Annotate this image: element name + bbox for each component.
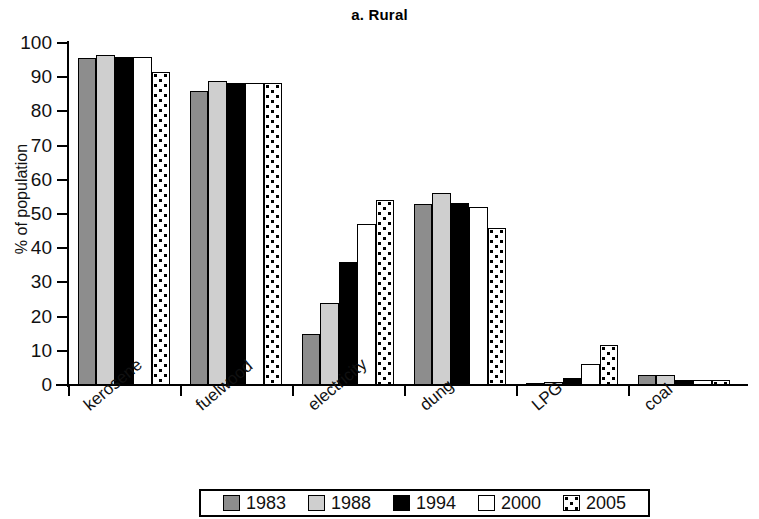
legend-item-1988[interactable]: 1988	[308, 494, 371, 512]
legend-label: 1988	[331, 494, 371, 512]
legend-swatch-icon-1994	[393, 495, 410, 511]
legend-item-2000[interactable]: 2000	[478, 494, 541, 512]
x-axis-tick	[404, 386, 406, 396]
x-axis-label-coal: coal	[640, 380, 677, 415]
y-axis-tick	[57, 42, 68, 44]
x-axis-tick	[180, 386, 182, 396]
legend-swatch-icon-2000	[478, 495, 495, 511]
y-axis-tick	[57, 110, 68, 112]
legend-label: 2000	[501, 494, 541, 512]
legend-label: 2005	[586, 494, 626, 512]
y-axis-tick	[57, 213, 68, 215]
y-axis-tick	[57, 316, 68, 318]
bar-chart: a. Rural % of population 010203040506070…	[0, 0, 759, 519]
x-axis-tick	[292, 386, 294, 396]
chart-legend: 19831988199420002005	[199, 489, 650, 517]
x-axis-tick	[628, 386, 630, 396]
legend-label: 1983	[246, 494, 286, 512]
legend-label: 1994	[416, 494, 456, 512]
legend-item-2005[interactable]: 2005	[563, 494, 626, 512]
x-axis-tick	[68, 386, 70, 396]
y-axis-tick	[57, 350, 68, 352]
x-axis-tick	[516, 386, 518, 396]
y-axis-tick	[57, 384, 68, 386]
legend-swatch-icon-2005	[563, 495, 580, 511]
legend-item-1994[interactable]: 1994	[393, 494, 456, 512]
x-axis-label-LPG: LPG	[528, 378, 567, 415]
legend-swatch-icon-1983	[223, 495, 240, 511]
x-axis-label-dung: dung	[416, 376, 458, 416]
legend-item-1983[interactable]: 1983	[223, 494, 286, 512]
x-axis-label-electricity: electricity	[304, 354, 371, 415]
x-axis-category-labels: kerosenefuelwoodelectricitydungLPGcoal	[0, 0, 759, 519]
x-axis-label-fuelwood: fuelwood	[192, 356, 257, 415]
x-axis-label-kerosene: kerosene	[80, 355, 146, 415]
y-axis-tick	[57, 145, 68, 147]
y-axis-tick	[57, 281, 68, 283]
y-axis-tick	[57, 76, 68, 78]
legend-swatch-icon-1988	[308, 495, 325, 511]
y-axis-tick	[57, 179, 68, 181]
y-axis-tick	[57, 247, 68, 249]
